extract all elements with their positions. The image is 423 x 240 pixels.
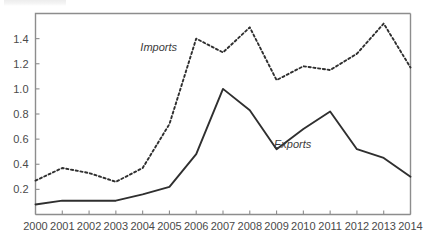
y-tick-label: 1.4 [13, 33, 28, 45]
x-tick-label: 2014 [398, 220, 422, 232]
x-tick-label: 2005 [157, 220, 181, 232]
series-line-imports [36, 24, 411, 182]
line-chart-figure: 0.20.40.60.81.01.21.4 200020012002200320… [0, 0, 423, 240]
y-tick-label: 0.4 [13, 158, 28, 170]
x-tick-label: 2000 [23, 220, 47, 232]
series-annotation-exports: Exports [274, 138, 312, 150]
y-tick-label: 0.6 [13, 133, 28, 145]
axis-frame [36, 14, 411, 215]
x-tick-label: 2011 [318, 220, 342, 232]
x-tick-label: 2009 [264, 220, 288, 232]
x-tick-label: 2012 [345, 220, 369, 232]
y-axis-tick-labels: 0.20.40.60.81.01.21.4 [13, 33, 28, 196]
y-tick-label: 0.2 [13, 183, 28, 195]
x-tick-label: 2001 [50, 220, 74, 232]
x-tick-label: 2003 [104, 220, 128, 232]
x-tick-label: 2006 [184, 220, 208, 232]
x-tick-label: 2002 [77, 220, 101, 232]
y-tick-label: 1.0 [13, 83, 28, 95]
x-tick-label: 2008 [238, 220, 262, 232]
x-tick-label: 2013 [371, 220, 395, 232]
y-tick-label: 0.8 [13, 108, 28, 120]
x-tick-label: 2007 [211, 220, 235, 232]
chart-container: 0.20.40.60.81.01.21.4 200020012002200320… [0, 0, 423, 240]
x-axis-tick-labels: 2000200120022003200420052006200720082009… [23, 220, 422, 232]
series-annotation-imports: Imports [140, 41, 177, 53]
y-tick-label: 1.2 [13, 58, 28, 70]
x-tick-label: 2010 [291, 220, 315, 232]
x-tick-label: 2004 [130, 220, 154, 232]
series-line-exports [36, 89, 411, 205]
